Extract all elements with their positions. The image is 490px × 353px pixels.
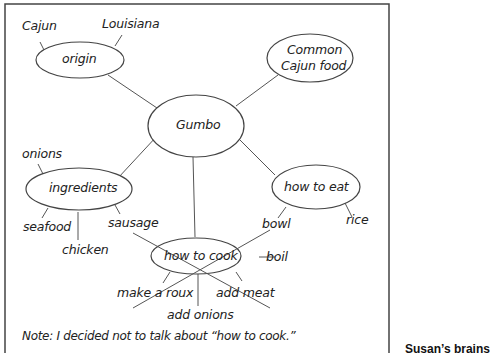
- detail-bowl: bowl: [262, 218, 290, 231]
- detail-add-onions: add onions: [167, 309, 234, 322]
- node-how-to-cook-label: how to cook: [164, 250, 238, 263]
- diagram-note: Note: I decided not to talk about “how t…: [22, 329, 295, 343]
- detail-chicken: chicken: [62, 244, 109, 257]
- detail-rice: rice: [346, 214, 368, 227]
- node-origin-label: origin: [62, 53, 96, 66]
- detail-sausage: sausage: [108, 217, 159, 230]
- detail-boil: boil: [266, 251, 288, 264]
- detail-cajun: Cajun: [22, 20, 57, 33]
- detail-seafood: seafood: [23, 221, 71, 234]
- figure-caption: Susan’s brains: [405, 342, 490, 353]
- detail-onions: onions: [22, 148, 62, 161]
- node-how-to-eat-label: how to eat: [284, 181, 349, 194]
- node-gumbo-label: Gumbo: [176, 119, 220, 132]
- node-common-food-line1: Common: [287, 44, 342, 57]
- node-ingredients-label: ingredients: [49, 182, 117, 195]
- detail-make-a-roux: make a roux: [117, 287, 193, 300]
- detail-add-meat: add meat: [216, 287, 274, 300]
- detail-louisiana: Louisiana: [102, 18, 159, 31]
- node-common-food-line2: Cajun food: [281, 60, 346, 73]
